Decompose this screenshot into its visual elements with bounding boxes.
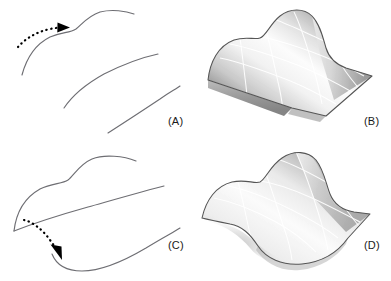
panel-d: (D) (196, 140, 391, 280)
profile-curve-2 (64, 54, 158, 108)
surface-face (202, 153, 370, 265)
arrow-head (57, 23, 70, 33)
figure-root: (A) (0, 0, 391, 281)
panel-label-a: (A) (168, 116, 183, 127)
profile-curve-3 (52, 228, 180, 271)
surface-body (208, 10, 372, 122)
panel-a: (A) (0, 0, 195, 140)
panel-a-graphic (0, 0, 195, 140)
sweep-direction-arrow (24, 220, 62, 260)
panel-b-graphic (196, 0, 391, 140)
panel-label-c: (C) (168, 240, 184, 251)
arrow-head (51, 245, 63, 261)
profile-curve-1 (22, 11, 134, 75)
surface-body (202, 152, 370, 270)
panel-c-graphic (0, 140, 195, 280)
panel-d-graphic (196, 140, 391, 280)
profile-curve-2 (14, 186, 164, 231)
panel-b: (B) (196, 0, 391, 140)
panel-label-b: (B) (364, 116, 379, 127)
panel-c: (C) (0, 140, 195, 280)
sweep-direction-arrow (18, 23, 70, 47)
profile-curve-1 (14, 156, 136, 231)
panel-label-d: (D) (364, 240, 380, 251)
